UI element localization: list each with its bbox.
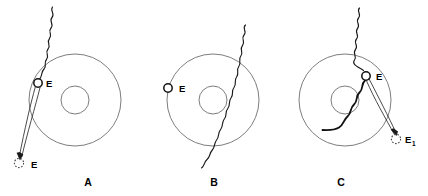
nucleus-ring-b (199, 86, 227, 114)
scattered-photon-wave-c (323, 81, 366, 131)
label-electron-scattered-c: E 1 (405, 134, 416, 147)
shell-outer-ring-a (29, 54, 121, 146)
label-electron-scattered-base: E (405, 134, 411, 145)
physics-figure: E E A E B (0, 0, 428, 196)
ejection-path-right-a (22, 87, 40, 157)
nucleus-ring-a (61, 86, 89, 114)
electron-scattered-ghost-c (391, 134, 400, 143)
recoil-path-upper-c (369, 78, 396, 132)
nucleus-ring-c (331, 86, 359, 114)
label-electron-bound-b: E (179, 83, 185, 94)
transmitted-photon-wave-b (202, 25, 246, 168)
label-electron-bound-c: E (376, 71, 382, 82)
electron-bound-b (164, 84, 172, 92)
incident-photon-wave-c (354, 8, 364, 71)
panel-caption-a: A (84, 176, 92, 188)
panel-caption-c: C (337, 176, 345, 188)
label-electron-ejected-a: E (31, 159, 37, 170)
ejection-path-left-a (20, 87, 36, 156)
label-electron-bound-a: E (46, 78, 52, 89)
panel-a: E E A (14, 7, 121, 188)
shell-outer-ring-b (167, 54, 259, 146)
electron-bound-a (34, 79, 42, 87)
panel-b: E B (164, 25, 259, 188)
figure-canvas: E E A E B (0, 0, 428, 196)
shell-outer-ring-c (299, 54, 391, 146)
panel-caption-b: B (210, 176, 218, 188)
label-electron-scattered-subscript: 1 (412, 140, 416, 147)
panel-c: E E 1 C (299, 8, 416, 188)
electron-ejected-ghost-a (14, 158, 23, 167)
